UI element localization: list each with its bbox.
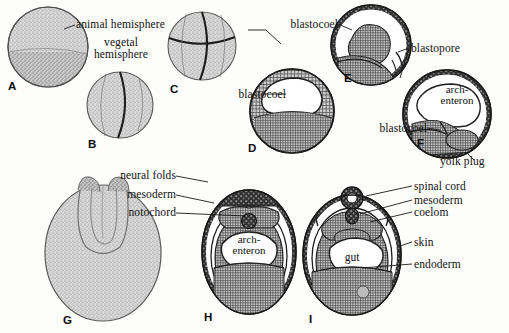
panel-letter-e: E [344,72,352,84]
label-endoderm: endoderm [414,258,461,270]
label-blastocoel-f: blastocoel [345,122,427,134]
label-vegetal-hemisphere-line1: vegetal [84,36,158,48]
panel-d-drawing [250,69,334,155]
panel-letter-c: C [170,83,178,95]
panel-letter-d: D [248,142,256,154]
label-animal-hemisphere: animal hemisphere [76,18,165,30]
panel-letter-i: I [309,313,312,325]
panel-b-drawing [87,72,153,138]
label-archenteron-f-line2: enteron [428,95,486,106]
label-yolk-plug: yolk plug [440,155,485,167]
label-blastocoel-e: blastocoel [258,18,338,30]
label-vegetal-hemisphere-line2: hemisphere [76,48,166,60]
embryo-development-figure: animal hemisphere vegetal hemisphere bla… [0,0,509,333]
panel-e-drawing [331,5,411,90]
panel-letter-h: H [204,311,212,323]
label-archenteron-h-line2: enteron [222,245,276,256]
panel-c-drawing [168,12,236,80]
panel-letter-a: A [8,80,16,92]
panel-letter-f: F [417,137,424,149]
panel-letter-b: B [88,138,96,150]
label-spinal-cord: spinal cord [414,180,466,192]
label-blastopore: blastopore [411,42,460,54]
label-notochord: notochord [96,206,176,218]
label-neural-folds: neural folds [86,169,176,181]
label-coelom: coelom [414,206,448,218]
panel-letter-g: G [63,314,72,326]
label-blastocoel-d: blastocoel [186,88,286,100]
label-skin: skin [414,236,434,248]
label-mesoderm-h: mesoderm [96,188,176,200]
label-gut: gut [330,252,374,264]
label-mesoderm-i: mesoderm [414,194,463,206]
